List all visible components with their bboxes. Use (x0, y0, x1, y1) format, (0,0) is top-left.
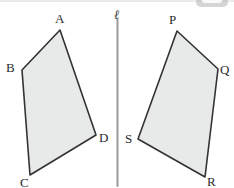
figure-canvas (0, 0, 234, 188)
scan-chip-artifact-inner (202, 0, 222, 3)
vertex-label-s: S (125, 132, 132, 145)
mirror-line-label: ℓ (114, 8, 119, 21)
quadrilateral-abcd (22, 30, 96, 175)
quadrilateral-pqrs (138, 31, 218, 177)
vertex-label-b: B (6, 61, 15, 74)
vertex-label-d: D (99, 131, 108, 144)
vertex-label-c: C (20, 176, 29, 188)
vertex-label-p: P (169, 13, 176, 26)
vertex-label-q: Q (220, 63, 229, 76)
vertex-label-r: R (207, 175, 216, 188)
vertex-label-a: A (55, 12, 64, 25)
geometry-figure: ℓ A B C D P Q R S (0, 0, 234, 188)
